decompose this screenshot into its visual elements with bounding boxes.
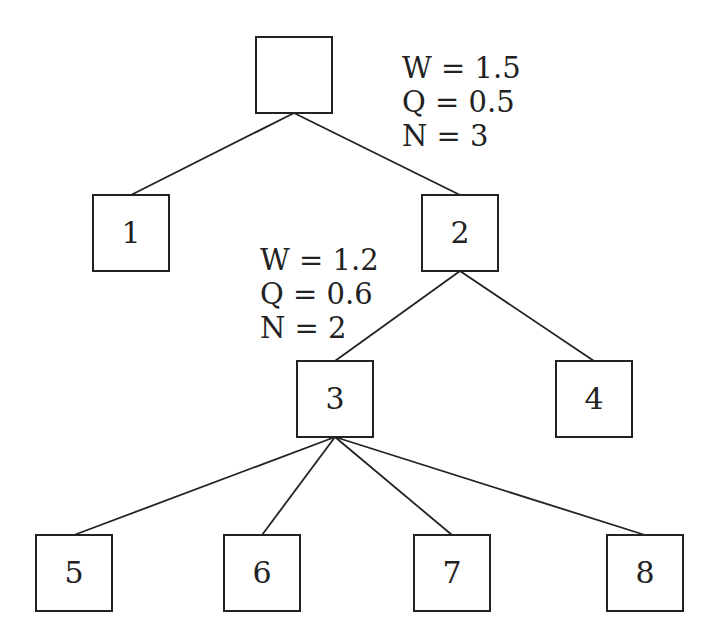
tree-node-root <box>256 37 332 113</box>
stat-line: W = 1.5 <box>402 51 521 85</box>
node-label: 8 <box>635 555 654 590</box>
stat-line: N = 2 <box>260 311 347 345</box>
edge-n2-n4 <box>460 271 594 361</box>
stat-line: W = 1.2 <box>260 243 379 277</box>
tree-diagram: 12345678 W = 1.5Q = 0.5N = 3W = 1.2Q = 0… <box>0 0 712 642</box>
tree-edges <box>74 113 645 535</box>
node-label: 7 <box>442 555 461 590</box>
tree-node-2: 2 <box>422 195 498 271</box>
tree-node-3: 3 <box>297 361 373 437</box>
node-label: 5 <box>64 555 83 590</box>
stat-line: N = 3 <box>402 119 489 153</box>
tree-node-6: 6 <box>224 535 300 611</box>
tree-node-5: 5 <box>36 535 112 611</box>
edge-n3-n7 <box>335 437 452 535</box>
node-label: 2 <box>450 215 469 250</box>
tree-node-8: 8 <box>607 535 683 611</box>
node-label: 3 <box>325 381 344 416</box>
edge-n3-n6 <box>262 437 335 535</box>
tree-node-7: 7 <box>414 535 490 611</box>
tree-node-4: 4 <box>556 361 632 437</box>
node-box <box>256 37 332 113</box>
edge-n3-n8 <box>335 437 645 535</box>
edge-n3-n5 <box>74 437 335 535</box>
stats-n2: W = 1.2Q = 0.6N = 2 <box>260 243 379 345</box>
node-label: 4 <box>584 381 603 416</box>
tree-nodes: 12345678 <box>36 37 683 611</box>
edge-root-n1 <box>131 113 294 195</box>
node-label: 6 <box>252 555 271 590</box>
stat-line: Q = 0.5 <box>402 85 515 119</box>
stats-root: W = 1.5Q = 0.5N = 3 <box>402 51 521 153</box>
stat-line: Q = 0.6 <box>260 277 373 311</box>
node-label: 1 <box>121 215 140 250</box>
tree-node-1: 1 <box>93 195 169 271</box>
